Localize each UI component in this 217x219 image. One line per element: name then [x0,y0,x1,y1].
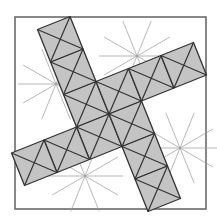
pinwheel-diagram [0,0,217,219]
